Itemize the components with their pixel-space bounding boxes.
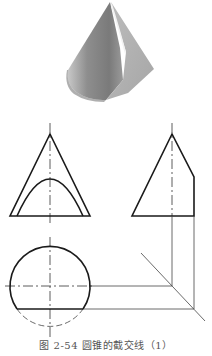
isometric-cone-render [66,2,154,102]
projection-lines [83,216,205,321]
miter-line-45deg [141,253,205,321]
technical-drawing [0,0,212,356]
side-cone-outline [132,134,194,216]
figure-caption: 图 2-54 圆锥的截交线（1） [0,339,212,353]
front-view [10,123,90,224]
side-view [132,123,194,216]
top-view [5,237,95,340]
cone-section-figure: 图 2-54 圆锥的截交线（1） [0,0,212,356]
